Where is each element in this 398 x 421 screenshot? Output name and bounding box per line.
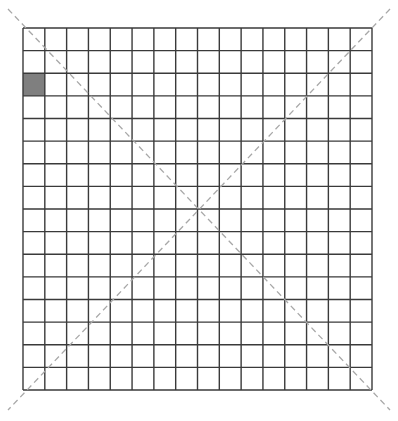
filled-cells [23,73,45,96]
grid-diagram [0,0,398,421]
filled-cell [23,73,45,96]
